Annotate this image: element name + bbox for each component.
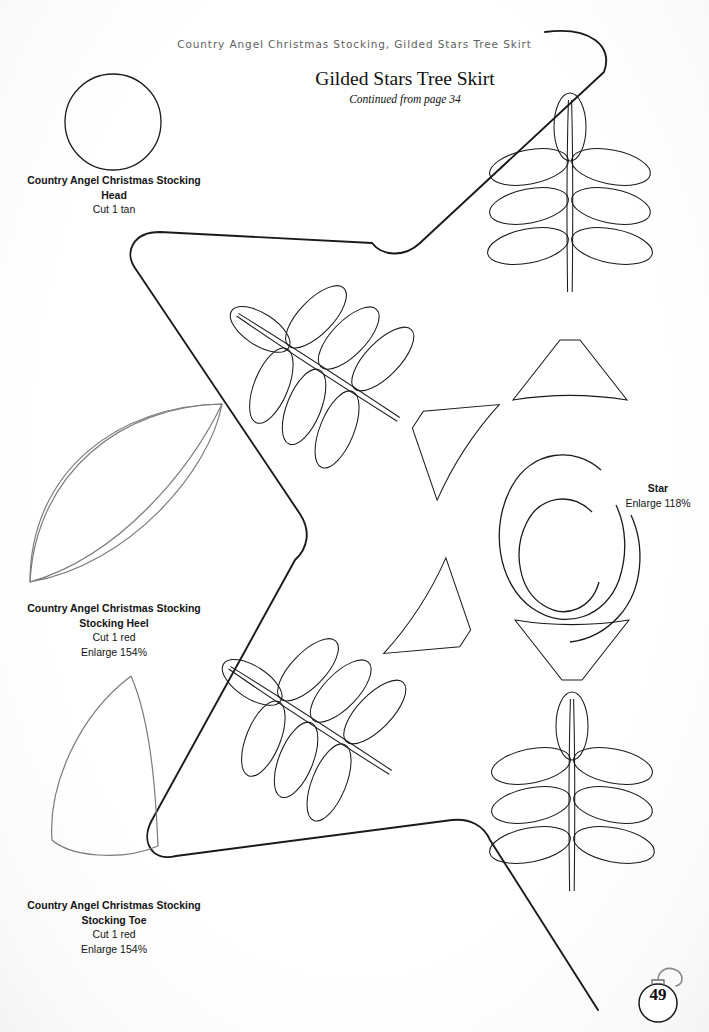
page-title: Gilded Stars Tree Skirt	[240, 68, 570, 90]
leaf-sprig-motif	[177, 592, 437, 844]
pot-triangle-motif	[384, 558, 496, 686]
heel-lens-pattern	[30, 404, 222, 582]
head-circle-pattern	[65, 74, 161, 170]
caption-head: Country Angel Christmas Stocking Head Cu…	[12, 173, 216, 217]
caption-head-line1: Country Angel Christmas Stocking	[12, 173, 216, 188]
pattern-page: Country Angel Christmas Stocking, Gilded…	[0, 0, 709, 1032]
caption-star-line1: Star	[612, 481, 704, 496]
leaf-sprig-motif	[487, 692, 658, 891]
caption-toe-line2: Stocking Toe	[12, 913, 216, 928]
running-head: Country Angel Christmas Stocking, Gilded…	[0, 38, 709, 50]
leaf-sprig-motif	[185, 239, 445, 491]
caption-heel-line4: Enlarge 154%	[12, 645, 216, 660]
caption-toe-line3: Cut 1 red	[12, 927, 216, 942]
pot-triangle-motif	[387, 372, 499, 500]
caption-heel: Country Angel Christmas Stocking Stockin…	[12, 601, 216, 659]
caption-toe: Country Angel Christmas Stocking Stockin…	[12, 898, 216, 956]
caption-toe-line1: Country Angel Christmas Stocking	[12, 898, 216, 913]
caption-star: Star Enlarge 118%	[612, 481, 704, 510]
caption-toe-line4: Enlarge 154%	[12, 942, 216, 957]
caption-heel-line1: Country Angel Christmas Stocking	[12, 601, 216, 616]
pot-triangle-motif	[513, 340, 627, 400]
pot-triangle-motif	[515, 620, 629, 680]
caption-heel-line3: Cut 1 red	[12, 630, 216, 645]
caption-heel-line2: Stocking Heel	[12, 616, 216, 631]
toe-petal-pattern	[52, 676, 158, 855]
page-subtitle: Continued from page 34	[240, 93, 570, 105]
caption-head-line3: Cut 1 tan	[12, 202, 216, 217]
ornament-hook-icon	[658, 968, 682, 986]
caption-head-line2: Head	[12, 188, 216, 203]
page-number: 49	[637, 985, 679, 1005]
pattern-artwork	[0, 0, 709, 1032]
leaf-sprig-motif	[485, 93, 656, 292]
caption-star-line2: Enlarge 118%	[612, 496, 704, 511]
